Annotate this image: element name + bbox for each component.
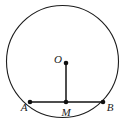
- geometry-canvas: O A M B: [0, 0, 127, 128]
- point-b-label: B: [107, 101, 114, 113]
- point-m-label: M: [60, 106, 71, 118]
- point-m-dot: [64, 100, 69, 105]
- point-o-dot: [64, 61, 69, 66]
- point-o-label: O: [54, 53, 62, 65]
- geometry-figure: O A M B: [0, 0, 127, 128]
- point-b-dot: [101, 100, 106, 105]
- point-a-dot: [28, 100, 33, 105]
- point-a-label: A: [20, 101, 28, 113]
